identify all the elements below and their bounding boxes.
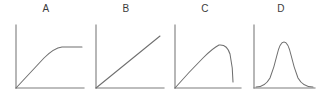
panel-a: A xyxy=(4,0,88,94)
panel-c: C xyxy=(163,0,247,94)
curve-b xyxy=(96,36,160,88)
panel-plot-b xyxy=(84,20,168,94)
panel-label-a: A xyxy=(4,3,88,15)
curve-d xyxy=(256,42,313,87)
panel-label-c: C xyxy=(163,3,247,15)
panel-label-d: D xyxy=(243,3,319,15)
panel-plot-c xyxy=(163,20,247,94)
panel-b: B xyxy=(84,0,168,94)
panel-label-b: B xyxy=(84,3,168,15)
panel-plot-d xyxy=(243,20,319,94)
panel-plot-a xyxy=(4,20,88,94)
panel-d: D xyxy=(243,0,319,94)
curve-a xyxy=(16,47,82,88)
figure-root: A B C D xyxy=(0,0,319,94)
curve-c xyxy=(175,45,233,88)
